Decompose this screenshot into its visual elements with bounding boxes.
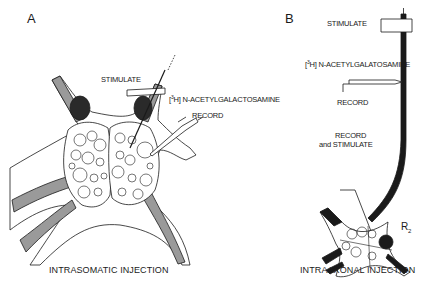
panel-b-stimulate-label: STIMULATE <box>327 20 367 28</box>
panel-a-injection-label: [3H] N-ACETYLGALACTOSAMINE <box>169 95 280 104</box>
neuron-letter: R <box>401 221 408 232</box>
panel-b-caption: INTRAAXONAL INJECTION <box>300 266 415 275</box>
panel-a-stimulate-label: STIMULATE <box>101 76 141 84</box>
panel-b-record-stimulate-line1: RECORD <box>335 132 366 140</box>
panel-a-record-label: RECORD <box>192 112 223 120</box>
neuron-subscript: 2 <box>408 228 411 234</box>
panel-a-drawing <box>10 55 203 265</box>
injection-compound: H] N-ACETYLGALACTOSAMINE <box>173 95 279 104</box>
panel-b-record-label: RECORD <box>337 99 368 107</box>
injection-compound: H] N-ACETYLGALATOSAMINE <box>309 60 410 69</box>
panel-b-injection-label: [3H] N-ACETYLGALATOSAMINE <box>305 60 410 69</box>
panel-b-neuron-label: R2 <box>401 222 411 234</box>
panel-b-letter: B <box>285 12 293 25</box>
panel-a-letter: A <box>27 12 35 25</box>
panel-b-record-stimulate-line2: and STIMULATE <box>319 141 373 149</box>
panel-a-caption: INTRASOMATIC INJECTION <box>49 266 169 275</box>
